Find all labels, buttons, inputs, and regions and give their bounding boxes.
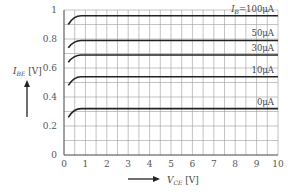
series-curve: [68, 109, 278, 118]
y-tick-label: 0.4: [43, 92, 58, 102]
x-tick-label: 10: [272, 159, 284, 169]
x-tick-label: 6: [190, 159, 196, 169]
x-tick-label: 1: [83, 159, 89, 169]
y-axis-arrow-icon: [24, 80, 30, 117]
x-tick-label: 3: [125, 159, 131, 169]
x-axis-label: VCE [V]: [167, 175, 199, 186]
series-curve: [68, 16, 278, 25]
series-curve: [68, 77, 278, 86]
x-tick-label: 9: [254, 159, 260, 169]
x-tick-label: 4: [147, 159, 153, 169]
y-tick-labels: 00.20.40.60.81: [43, 5, 58, 160]
x-tick-label: 5: [168, 159, 174, 169]
y-tick-label: 1: [51, 5, 57, 15]
y-tick-label: 0.6: [43, 63, 58, 73]
y-axis-label: IBE [V]: [12, 66, 42, 77]
y-tick-label: 0: [51, 150, 57, 160]
y-tick-label: 0.8: [43, 34, 58, 44]
x-tick-labels: 012345678910: [61, 159, 284, 169]
series-label: 0μA: [257, 97, 275, 107]
x-tick-label: 7: [211, 159, 217, 169]
series-label: IB=100μA: [230, 4, 275, 15]
x-axis-arrow-icon: [128, 176, 160, 182]
series-label: 30μA: [252, 43, 275, 53]
bjt-characteristic-chart: 00.20.40.60.81 012345678910 IB=100μA50μA…: [0, 0, 288, 195]
x-tick-label: 8: [232, 159, 238, 169]
y-tick-label: 0.2: [43, 121, 57, 131]
curves: [68, 16, 278, 118]
x-tick-label: 2: [104, 159, 110, 169]
x-tick-label: 0: [61, 159, 67, 169]
grid: [64, 10, 278, 155]
series-label: 50μA: [252, 28, 275, 38]
series-curve: [68, 55, 278, 62]
series-label: 10μA: [252, 65, 275, 75]
series-curve: [68, 40, 278, 47]
